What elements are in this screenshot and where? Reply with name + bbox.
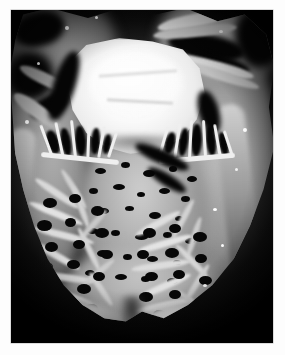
region-trabeculae-carneae-left xyxy=(25,186,133,322)
specular-highlight xyxy=(25,120,29,124)
trabecular-space xyxy=(77,284,91,294)
trabecular-space xyxy=(181,312,193,320)
trabecular-space xyxy=(73,240,85,249)
apex-notch-shadow xyxy=(119,296,145,336)
trabecular-space xyxy=(169,224,181,233)
trabecular-pit xyxy=(181,196,190,202)
trabecular-pit xyxy=(95,168,106,174)
trabecular-space xyxy=(169,290,181,299)
trabecular-space xyxy=(145,272,158,281)
trabecular-space xyxy=(69,194,81,203)
trabecular-space xyxy=(37,220,52,231)
specular-highlight xyxy=(203,284,207,287)
valve-leaflet-highlight xyxy=(89,52,183,114)
specular-highlight xyxy=(213,208,217,211)
trabecular-space xyxy=(195,298,207,306)
trabecular-space xyxy=(195,254,207,263)
trabecular-space xyxy=(101,250,113,259)
specular-highlight xyxy=(31,238,34,241)
trabecular-space xyxy=(91,206,104,216)
trabecular-pit xyxy=(121,162,130,168)
region-trabeculae-carneae-right xyxy=(129,214,233,332)
specimen-photograph xyxy=(11,10,273,343)
chorda-strand xyxy=(86,122,90,158)
specular-highlight xyxy=(37,62,40,65)
trabecular-space xyxy=(95,228,109,238)
heart-specimen xyxy=(11,10,273,338)
trabecular-pit xyxy=(159,188,170,194)
trabecular-pit xyxy=(187,176,197,182)
specular-highlight xyxy=(235,168,238,171)
trabecular-space xyxy=(49,282,62,291)
trabecular-space xyxy=(45,242,58,252)
specular-highlight xyxy=(47,276,50,279)
trabecular-space xyxy=(93,272,105,281)
trabecular-space xyxy=(39,262,53,272)
trabecular-pit xyxy=(137,192,145,197)
trabecular-space xyxy=(67,260,80,269)
specular-highlight xyxy=(243,128,247,132)
trabecular-space xyxy=(137,250,149,259)
trabecular-space xyxy=(65,218,76,227)
specular-highlight xyxy=(221,244,224,247)
specular-highlight xyxy=(95,16,98,19)
trabecular-space xyxy=(55,302,67,310)
trabecular-space xyxy=(193,232,207,242)
trabecular-space xyxy=(165,248,179,258)
specular-highlight xyxy=(65,26,69,30)
trabecular-space xyxy=(143,228,156,238)
trabecular-space xyxy=(173,270,185,279)
figure-page xyxy=(0,0,285,355)
specular-highlight xyxy=(219,30,223,33)
trabecular-space xyxy=(43,198,57,208)
